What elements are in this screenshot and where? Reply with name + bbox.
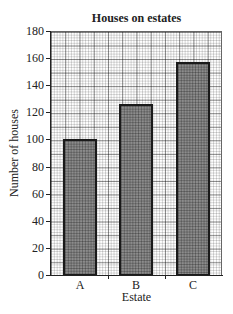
y-tick-label: 80 (32, 161, 44, 173)
y-tick-mark (46, 194, 51, 195)
y-tick-label: 120 (26, 106, 44, 118)
y-tick-label: 0 (38, 269, 44, 281)
y-tick-mark (46, 167, 51, 168)
x-axis-title: Estate (51, 290, 222, 305)
y-tick-label: 140 (26, 79, 44, 91)
y-tick-label: 40 (32, 215, 44, 227)
bar-a (63, 139, 97, 276)
y-tick-mark (46, 85, 51, 86)
y-tick-mark (46, 58, 51, 59)
x-axis-line (46, 275, 223, 276)
y-tick-mark (46, 221, 51, 222)
y-tick-mark (46, 275, 51, 276)
bar-b (119, 104, 153, 276)
y-tick-label: 20 (32, 242, 44, 254)
y-tick-label: 180 (26, 25, 44, 37)
x-tick-mark (108, 275, 109, 279)
y-tick-mark (46, 139, 51, 140)
chart-title: Houses on estates (51, 11, 222, 26)
y-tick-label: 60 (32, 188, 44, 200)
y-axis-title: Number of houses (7, 109, 22, 197)
y-tick-label: 160 (26, 52, 44, 64)
y-tick-mark (46, 31, 51, 32)
x-tick-mark (165, 275, 166, 279)
bar-c (176, 62, 210, 276)
y-axis-line (50, 31, 51, 276)
y-tick-mark (46, 112, 51, 113)
y-tick-mark (46, 248, 51, 249)
y-tick-label: 100 (26, 133, 44, 145)
